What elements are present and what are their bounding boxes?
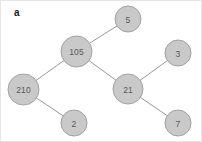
tree-node-label: 210	[16, 85, 31, 95]
tree-node-label: 21	[123, 85, 133, 95]
tree-node: 2	[61, 110, 87, 136]
node-layer: 105521021237	[8, 6, 191, 136]
tree-node-label: 105	[69, 47, 84, 57]
figure-panel: a 105521021237	[0, 0, 202, 142]
binary-tree-diagram: 105521021237	[1, 1, 202, 142]
tree-node: 7	[165, 110, 191, 136]
tree-edge	[140, 60, 168, 80]
tree-node: 5	[115, 6, 141, 32]
tree-node: 3	[165, 40, 191, 66]
tree-node: 21	[113, 74, 143, 104]
tree-node: 105	[61, 36, 92, 67]
tree-node-label: 3	[176, 49, 181, 59]
tree-node: 210	[8, 74, 39, 105]
tree-node-label: 2	[72, 119, 77, 129]
tree-node-label: 5	[126, 15, 131, 25]
tree-node-label: 7	[176, 119, 181, 129]
tree-edge	[36, 98, 64, 116]
edge-layer	[36, 26, 168, 116]
tree-edge	[140, 97, 168, 116]
tree-edge	[89, 60, 117, 80]
tree-edge	[89, 26, 117, 44]
tree-edge	[36, 60, 65, 81]
